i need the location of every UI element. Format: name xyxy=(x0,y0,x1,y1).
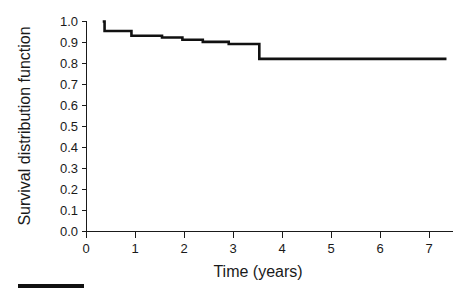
scale-bar xyxy=(18,284,84,288)
x-axis-ticks xyxy=(87,232,430,238)
survival-curve-figure: 1.0 0.9 0.8 0.7 0.6 0.5 0.4 0.3 0.2 0.1 … xyxy=(0,0,466,299)
x-axis-title: Time (years) xyxy=(213,263,302,280)
y-axis-title: Survival distribution function xyxy=(16,26,33,225)
y-tick-label: 0.1 xyxy=(60,203,78,218)
x-tick-label: 7 xyxy=(425,241,432,256)
x-tick-label: 5 xyxy=(327,241,334,256)
x-tick-label: 6 xyxy=(376,241,383,256)
x-tick-label: 4 xyxy=(278,241,285,256)
x-tick-label: 1 xyxy=(131,241,138,256)
y-tick-label: 0.6 xyxy=(60,98,78,113)
y-tick-label: 0.0 xyxy=(60,224,78,239)
x-tick-label: 0 xyxy=(82,241,89,256)
y-tick-label: 0.2 xyxy=(60,182,78,197)
y-tick-label: 0.8 xyxy=(60,56,78,71)
y-tick-label: 1.0 xyxy=(60,14,78,29)
y-tick-label: 0.9 xyxy=(60,35,78,50)
y-axis-tick-labels: 1.0 0.9 0.8 0.7 0.6 0.5 0.4 0.3 0.2 0.1 … xyxy=(60,14,78,239)
y-tick-label: 0.4 xyxy=(60,140,78,155)
y-tick-label: 0.5 xyxy=(60,119,78,134)
plot-axes xyxy=(87,21,453,232)
chart-canvas: 1.0 0.9 0.8 0.7 0.6 0.5 0.4 0.3 0.2 0.1 … xyxy=(0,0,466,299)
y-tick-label: 0.7 xyxy=(60,77,78,92)
survival-step-curve xyxy=(103,22,447,59)
x-axis-tick-labels: 0 1 2 3 4 5 6 7 xyxy=(82,241,432,256)
x-tick-label: 2 xyxy=(180,241,187,256)
y-tick-label: 0.3 xyxy=(60,161,78,176)
x-tick-label: 3 xyxy=(229,241,236,256)
